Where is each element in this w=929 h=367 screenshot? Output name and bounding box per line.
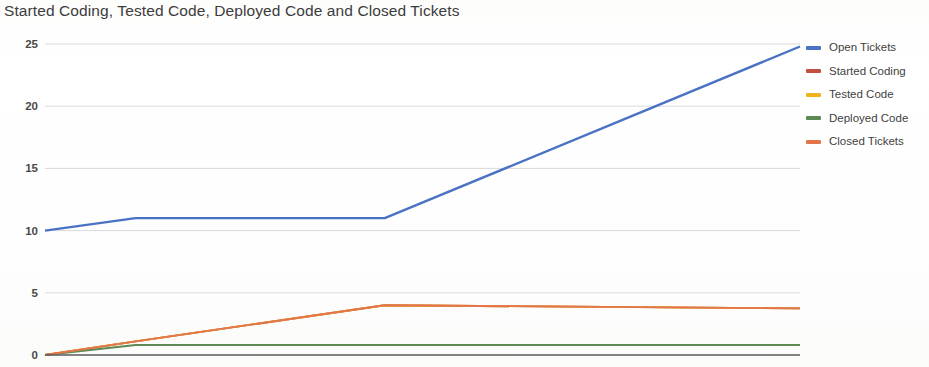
legend-swatch-icon (806, 46, 821, 50)
legend-item[interactable]: Tested Code (806, 83, 926, 107)
legend-item-label: Closed Tickets (829, 136, 904, 148)
line-chart: Started Coding, Tested Code, Deployed Co… (0, 0, 929, 367)
legend-swatch-icon (806, 140, 821, 144)
legend-item-label: Tested Code (829, 89, 894, 101)
series-lines (45, 46, 800, 355)
legend-item[interactable]: Started Coding (806, 60, 926, 84)
series-line-tested-code (45, 305, 800, 355)
legend-item-label: Open Tickets (829, 42, 896, 54)
legend-item-label: Started Coding (829, 66, 906, 78)
legend-item[interactable]: Closed Tickets (806, 130, 926, 154)
series-line-closed-tickets (45, 305, 800, 355)
y-axis-tick-label: 25 (4, 38, 38, 50)
legend-item-label: Deployed Code (829, 113, 908, 125)
series-line-started-coding (45, 305, 800, 355)
plot-svg (45, 44, 800, 355)
y-axis-tick-labels: 0510152025 (0, 44, 38, 355)
y-axis-tick-label: 0 (4, 349, 38, 361)
chart-title: Started Coding, Tested Code, Deployed Co… (4, 2, 460, 20)
legend-swatch-icon (806, 93, 821, 97)
y-axis-tick-label: 15 (4, 162, 38, 174)
legend-swatch-icon (806, 116, 821, 120)
plot-area (45, 44, 800, 355)
y-axis-tick-label: 10 (4, 225, 38, 237)
gridlines (45, 44, 800, 293)
legend-swatch-icon (806, 69, 821, 73)
y-axis-tick-label: 20 (4, 100, 38, 112)
chart-legend: Open TicketsStarted CodingTested CodeDep… (806, 36, 926, 154)
legend-item[interactable]: Open Tickets (806, 36, 926, 60)
legend-item[interactable]: Deployed Code (806, 107, 926, 131)
series-line-open-tickets (45, 46, 800, 230)
y-axis-tick-label: 5 (4, 287, 38, 299)
series-line-deployed-code (45, 345, 800, 355)
